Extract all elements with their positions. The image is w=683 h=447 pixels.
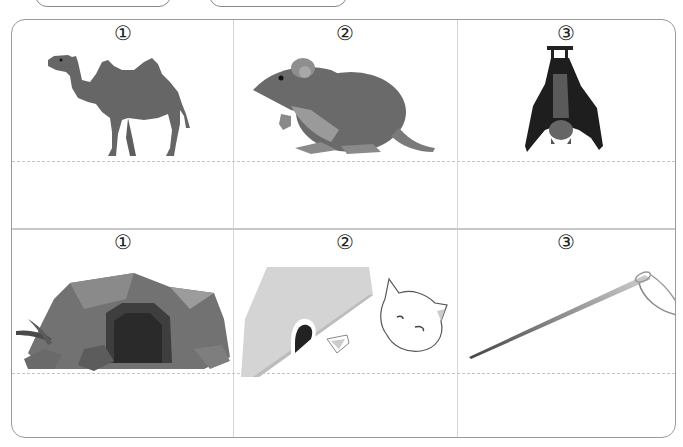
answer-area[interactable]	[457, 162, 675, 228]
item-row2-2: ②	[233, 229, 457, 437]
item-number: ①	[12, 22, 233, 44]
answer-area[interactable]	[233, 374, 457, 437]
header-pill-1	[35, 0, 171, 7]
item-row1-3: ③	[457, 20, 675, 228]
item-row2-1: ①	[12, 229, 233, 437]
item-number: ①	[12, 231, 233, 253]
item-number: ②	[233, 231, 457, 253]
rat-icon	[251, 50, 436, 160]
item-number: ②	[233, 22, 457, 44]
answer-area[interactable]	[457, 374, 675, 437]
cave-icon	[14, 269, 232, 373]
mouse-hole-cat-icon	[239, 259, 453, 377]
camel-icon	[44, 48, 199, 160]
header-pill-2	[209, 0, 347, 7]
hanging-bat-icon	[521, 46, 611, 158]
worksheet-grid: ① ② ③	[11, 19, 676, 438]
answer-area[interactable]	[12, 162, 233, 228]
item-row1-2: ②	[233, 20, 457, 228]
item-row1-1: ①	[12, 20, 233, 228]
item-number: ③	[457, 231, 675, 253]
answer-area[interactable]	[233, 162, 457, 228]
answer-area[interactable]	[12, 374, 233, 437]
item-row2-3: ③	[457, 229, 675, 437]
item-number: ③	[457, 22, 675, 44]
threaded-needle-icon	[467, 269, 676, 359]
